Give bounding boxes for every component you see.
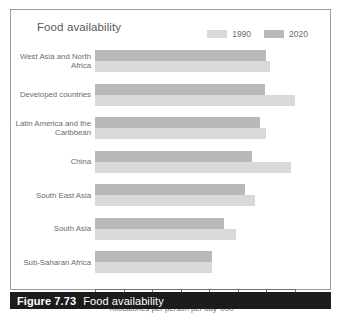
bar-group: South Asia [11, 218, 332, 240]
bar-1990 [95, 95, 295, 106]
bar-pair [95, 218, 236, 240]
bar-2020 [95, 84, 265, 95]
category-label: Sub-Saharan Africa [11, 258, 91, 267]
bar-pair [95, 251, 212, 273]
bar-1990 [95, 229, 236, 240]
bar-1990 [95, 162, 291, 173]
bar-pair [95, 84, 295, 106]
bar-pair [95, 117, 266, 139]
legend-label-1990: 1990 [232, 30, 251, 39]
category-label: Latin America and the Caribbean [11, 119, 91, 138]
legend-entry-1990: 1990 [207, 30, 251, 39]
bar-2020 [95, 117, 260, 128]
bar-pair [95, 151, 291, 173]
bar-pair [95, 50, 270, 72]
bar-1990 [95, 128, 266, 139]
bar-group: West Asia and North Africa [11, 50, 332, 72]
bar-2020 [95, 151, 252, 162]
bar-2020 [95, 251, 212, 262]
bar-1990 [95, 262, 212, 273]
bar-group: Developed countries [11, 84, 332, 106]
bar-group: China [11, 151, 332, 173]
legend-swatch-1990 [207, 30, 227, 38]
bar-pair [95, 184, 255, 206]
plot-area: West Asia and North AfricaDeveloped coun… [11, 46, 332, 256]
chart-legend: 1990 2020 [207, 30, 308, 39]
chart-panel: Food availability 1990 2020 West Asia an… [10, 9, 331, 290]
category-label: South Asia [11, 224, 91, 233]
bar-group: Sub-Saharan Africa [11, 251, 332, 273]
figure-caption-text: Food availability [83, 295, 164, 307]
figure-caption-number: Figure 7.73 [17, 295, 76, 307]
bar-group: South East Asia [11, 184, 332, 206]
figure-caption-bar: Figure 7.73 Food availability [10, 292, 331, 309]
x-axis: 00.51.01.52.02.53.03.5 [95, 289, 295, 290]
category-label: China [11, 157, 91, 166]
bar-1990 [95, 61, 270, 72]
category-label: Developed countries [11, 90, 91, 99]
bar-1990 [95, 195, 255, 206]
bar-rows: West Asia and North AfricaDeveloped coun… [11, 46, 332, 256]
bar-2020 [95, 218, 224, 229]
category-label: West Asia and North Africa [11, 52, 91, 71]
bar-group: Latin America and the Caribbean [11, 117, 332, 139]
figure-container: Food availability 1990 2020 West Asia an… [0, 0, 341, 316]
legend-swatch-2020 [264, 30, 284, 38]
legend-entry-2020: 2020 [264, 30, 308, 39]
bar-2020 [95, 50, 266, 61]
chart-title: Food availability [37, 21, 121, 33]
legend-label-2020: 2020 [289, 30, 308, 39]
bar-2020 [95, 184, 245, 195]
category-label: South East Asia [11, 191, 91, 200]
